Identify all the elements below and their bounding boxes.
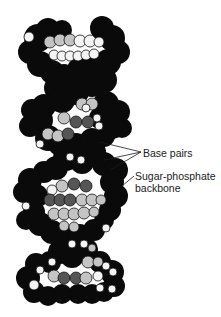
dna-figure: Base pairs Sugar-phosphate backbone: [0, 0, 221, 317]
sugar-phosphate-label: Sugar-phosphate: [135, 170, 216, 182]
backbone-label: backbone: [135, 182, 181, 194]
base-pairs-label: Base pairs: [143, 147, 193, 159]
